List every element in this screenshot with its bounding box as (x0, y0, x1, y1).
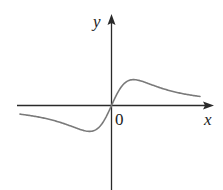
graph-canvas (0, 0, 223, 190)
y-axis-label: y (93, 13, 101, 30)
origin-label: 0 (115, 111, 124, 128)
x-axis-label: x (204, 111, 212, 128)
